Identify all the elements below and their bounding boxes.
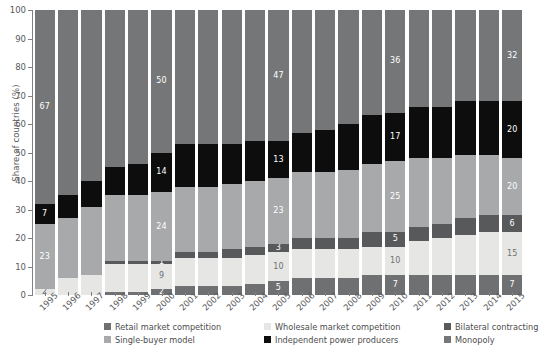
bar-segment (128, 195, 148, 261)
bar-column[interactable] (292, 10, 312, 295)
bar-column[interactable]: 291241450 (151, 10, 171, 295)
bar-segment (198, 258, 218, 287)
legend-item[interactable]: Bilateral contracting (444, 322, 543, 332)
bar-segment: 50 (151, 10, 171, 153)
bar-column[interactable]: 5103231347 (268, 10, 288, 295)
bar-value-label: 17 (390, 133, 400, 141)
bar-column[interactable] (105, 10, 125, 295)
legend-item-label: Single-buyer model (115, 335, 195, 345)
bar-segment: 5 (385, 232, 405, 246)
bar-column[interactable] (409, 10, 429, 295)
legend-item-label: Monopoly (455, 335, 495, 345)
x-tick-mark (232, 292, 233, 296)
bar-column[interactable] (362, 10, 382, 295)
bar-value-label: 47 (273, 72, 283, 80)
bar-value-label: 23 (273, 207, 283, 215)
bar-segment (362, 10, 382, 115)
bar-value-label: 50 (156, 77, 166, 85)
bar-column[interactable]: 223767 (35, 10, 55, 295)
bar-segment: 47 (268, 10, 288, 141)
bar-segment: 23 (268, 178, 288, 244)
bar-segment (175, 187, 195, 253)
bar-column[interactable] (479, 10, 499, 295)
bar-segment (315, 249, 335, 278)
bar-segment: 67 (35, 10, 55, 204)
bar-column[interactable]: 7156202032 (502, 10, 522, 295)
bar-segment (432, 158, 452, 224)
legend-item[interactable]: Monopoly (444, 335, 543, 345)
bar-segment (245, 247, 265, 256)
bar-segment: 1 (151, 261, 171, 264)
bar-value-label: 67 (39, 103, 49, 111)
bar-value-label: 20 (507, 183, 517, 191)
x-axis-label: 2015 (502, 296, 522, 324)
x-tick-mark (45, 292, 46, 296)
bar-column[interactable] (315, 10, 335, 295)
legend-item[interactable]: Retail market competition (104, 322, 264, 332)
bar-segment (222, 10, 242, 144)
bar-column[interactable] (198, 10, 218, 295)
bar-column[interactable] (455, 10, 475, 295)
bar-segment (338, 238, 358, 249)
bar-segment (409, 10, 429, 107)
plot-area: 0102030405060708090100 22376729124145051… (33, 10, 524, 295)
y-axis-title: Share of countries (%) (11, 53, 21, 213)
bar-segment (175, 144, 195, 187)
bar-value-label: 7 (42, 210, 47, 218)
bar-segment (128, 264, 148, 293)
bar-segment (432, 224, 452, 238)
bar-segment: 32 (502, 10, 522, 101)
legend-swatch-icon (264, 323, 271, 330)
bar-segment (81, 207, 101, 275)
legend-swatch-icon (104, 323, 111, 330)
bar-column[interactable] (128, 10, 148, 295)
bar-column[interactable] (432, 10, 452, 295)
bar-column[interactable] (81, 10, 101, 295)
legend-item[interactable]: Single-buyer model (104, 335, 264, 345)
bar-segment (198, 252, 218, 258)
bar-value-label: 32 (507, 52, 517, 60)
bar-segment: 23 (35, 224, 55, 290)
legend-item[interactable]: Independent power producers (264, 335, 444, 345)
bar-column[interactable] (245, 10, 265, 295)
bar-segment: 7 (35, 204, 55, 224)
bar-segment (455, 218, 475, 235)
bar-segment (128, 164, 148, 195)
bar-segment (81, 181, 101, 207)
bar-segment: 10 (385, 247, 405, 276)
bar-segment (315, 130, 335, 173)
bar-column[interactable] (175, 10, 195, 295)
bar-value-label: 25 (390, 193, 400, 201)
bar-segment (362, 115, 382, 163)
bar-segment (292, 238, 312, 249)
legend-swatch-icon (264, 336, 271, 343)
bar-segment (432, 238, 452, 275)
y-tick-label: 50 (15, 148, 26, 158)
bar-column[interactable] (338, 10, 358, 295)
bar-segment (105, 261, 125, 264)
bar-column[interactable] (58, 10, 78, 295)
bar-segment: 24 (151, 192, 171, 260)
bar-segment (245, 181, 265, 247)
y-tick-label: 10 (15, 262, 26, 272)
legend-item[interactable]: Wholesale market competition (264, 322, 444, 332)
legend-item-label: Independent power producers (275, 335, 398, 345)
bar-column[interactable]: 7105251736 (385, 10, 405, 295)
bar-segment: 25 (385, 161, 405, 232)
bar-segment (338, 170, 358, 238)
bar-segment (338, 10, 358, 124)
bar-column[interactable] (222, 10, 242, 295)
bar-segment: 14 (151, 153, 171, 193)
bar-segment: 9 (151, 264, 171, 290)
bar-segment (58, 195, 78, 218)
bar-segment (128, 261, 148, 264)
bar-segment (455, 155, 475, 218)
bar-segment (198, 187, 218, 253)
y-tick-label: 80 (15, 62, 26, 72)
legend-item-label: Bilateral contracting (455, 322, 538, 332)
bar-segment (198, 10, 218, 144)
bar-segment (198, 144, 218, 187)
stacked-bar-group: 2237672912414505103231347710525173671562… (33, 10, 524, 295)
legend-swatch-icon (444, 323, 451, 330)
